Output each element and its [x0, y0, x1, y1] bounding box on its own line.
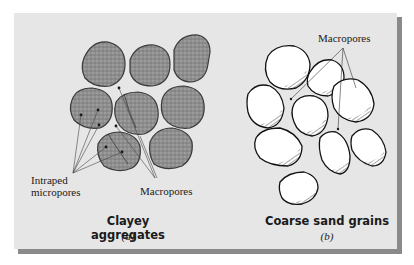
- sand-grain: [292, 96, 328, 136]
- macropores-label-b: Macropores: [318, 32, 371, 44]
- sand-grain: [319, 132, 350, 174]
- sand-grain: [332, 79, 374, 122]
- macropores-label-a: Macropores: [140, 185, 193, 197]
- sand-grains: [247, 46, 386, 205]
- sand-grain: [279, 172, 318, 204]
- sand-grain: [247, 85, 284, 128]
- panel-b-title: Coarse sand grains: [262, 214, 392, 228]
- clay-aggregate: [115, 92, 159, 134]
- sand-grain: [255, 128, 302, 166]
- panel-a-sublabel: (a): [68, 230, 188, 242]
- intraped-label-line1: Intraped: [31, 174, 80, 186]
- clay-aggregates: [70, 35, 210, 171]
- sand-grain: [351, 129, 386, 166]
- panel-b-sublabel: (b): [262, 230, 392, 242]
- clay-aggregate: [130, 45, 170, 86]
- clay-aggregate: [174, 35, 210, 82]
- intraped-label-line2: micropores: [31, 186, 80, 198]
- clay-aggregate: [82, 42, 125, 87]
- clay-aggregate: [161, 86, 204, 128]
- clay-aggregate: [70, 88, 112, 128]
- clay-aggregate: [150, 128, 193, 169]
- sand-grain: [265, 46, 310, 89]
- intraped-micropores-label: Intraped micropores: [31, 174, 80, 198]
